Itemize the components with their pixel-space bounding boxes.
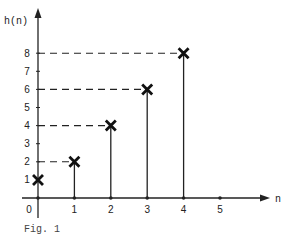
y-tick-label: 4 <box>24 120 30 131</box>
x-tick-label: 5 <box>217 204 223 215</box>
y-tick-label: 6 <box>24 84 30 95</box>
x-tick-dot <box>182 196 186 200</box>
y-tick-label: 3 <box>24 138 30 149</box>
y-axis-title: h(n) <box>4 16 28 27</box>
y-tick-label: 1 <box>24 174 30 185</box>
x-tick-dot <box>145 196 149 200</box>
x-tick-dot <box>109 196 113 200</box>
y-axis-arrow-icon <box>35 8 42 18</box>
x-tick-label: 1 <box>72 204 78 215</box>
axes <box>22 8 270 218</box>
x-tick-label: 4 <box>181 204 187 215</box>
x-axis-title: n <box>275 194 281 205</box>
x-tick-label: 2 <box>108 204 114 215</box>
x-axis-arrow-icon <box>260 195 270 202</box>
y-tick-label: 7 <box>24 66 30 77</box>
x-tick-label: 3 <box>144 204 150 215</box>
x-tick-label: 0 <box>26 204 32 215</box>
figure-caption: Fig. 1 <box>24 224 60 235</box>
y-tick-label: 5 <box>24 102 30 113</box>
x-tick-dot <box>36 196 40 200</box>
y-tick-label: 2 <box>24 156 30 167</box>
stem-plot: 12345678012345 h(n) n <box>0 0 290 245</box>
y-tick-label: 8 <box>24 48 30 59</box>
dashed-guide-lines <box>38 53 180 162</box>
ticks: 12345678012345 <box>24 48 223 215</box>
x-tick-dot <box>218 196 222 200</box>
x-tick-dot <box>73 196 77 200</box>
